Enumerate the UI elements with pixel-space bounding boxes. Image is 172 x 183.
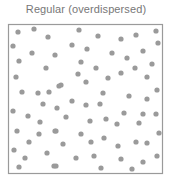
- point-dot: [98, 165, 103, 170]
- point-dot: [95, 33, 100, 38]
- point-dot: [44, 150, 49, 155]
- point-dot: [54, 105, 59, 110]
- point-dot: [73, 155, 78, 160]
- point-dot: [53, 128, 58, 133]
- point-dot: [10, 108, 15, 113]
- point-dot: [84, 46, 89, 51]
- point-dot: [126, 93, 131, 98]
- point-dot: [91, 153, 96, 158]
- point-dot: [136, 120, 141, 125]
- point-dot: [75, 71, 80, 76]
- point-dot: [109, 50, 114, 55]
- point-dot: [97, 101, 102, 106]
- point-dot: [22, 155, 27, 160]
- point-dot: [37, 119, 42, 124]
- point-dot: [36, 131, 41, 136]
- point-dot: [87, 118, 92, 123]
- point-dot: [45, 34, 50, 39]
- point-dot: [69, 42, 74, 47]
- point-dot: [155, 40, 160, 45]
- point-dot: [11, 147, 16, 152]
- point-dot: [144, 140, 149, 145]
- point-dot: [153, 111, 158, 116]
- point-dot: [15, 29, 20, 34]
- plot-frame: [9, 25, 163, 174]
- point-dot: [118, 70, 123, 75]
- point-dot: [118, 36, 123, 41]
- point-dot: [133, 139, 138, 144]
- point-dot: [124, 55, 129, 60]
- points-group: [10, 26, 161, 171]
- point-dot: [140, 48, 145, 53]
- point-dot: [133, 32, 138, 37]
- point-dot: [25, 113, 30, 118]
- point-dot: [78, 131, 83, 136]
- point-dot: [53, 163, 58, 168]
- point-dot: [40, 101, 45, 106]
- point-dot: [63, 114, 68, 119]
- point-dot: [153, 28, 158, 33]
- point-dot: [118, 156, 123, 161]
- point-dot: [129, 166, 134, 171]
- point-dot: [26, 139, 31, 144]
- point-dot: [78, 59, 83, 64]
- point-dot: [105, 75, 110, 80]
- point-dot: [88, 139, 93, 144]
- point-dot: [132, 65, 137, 70]
- point-dot: [13, 74, 18, 79]
- point-dot: [121, 110, 126, 115]
- point-dot: [100, 90, 105, 95]
- point-dot: [103, 116, 108, 121]
- point-dot: [140, 111, 145, 116]
- point-dot: [58, 82, 63, 87]
- point-dot: [76, 27, 81, 32]
- point-dot: [29, 50, 34, 55]
- point-dot: [14, 128, 19, 133]
- point-dot: [69, 98, 74, 103]
- point-dot: [46, 89, 51, 94]
- point-dot: [115, 143, 120, 148]
- point-dot: [156, 130, 161, 135]
- point-dot: [144, 96, 149, 101]
- point-dot: [140, 159, 145, 164]
- point-dot: [101, 135, 106, 140]
- point-dot: [16, 164, 21, 169]
- point-dot: [43, 65, 48, 70]
- point-dot: [35, 90, 40, 95]
- point-dot: [114, 121, 119, 126]
- point-dot: [10, 43, 15, 48]
- point-dot: [31, 26, 36, 31]
- point-pattern-plot: [0, 0, 172, 183]
- point-dot: [19, 89, 24, 94]
- point-dot: [52, 52, 57, 57]
- point-dot: [149, 61, 154, 66]
- point-dot: [93, 65, 98, 70]
- point-dot: [154, 153, 159, 158]
- point-dot: [83, 79, 88, 84]
- point-dot: [60, 141, 65, 146]
- point-dot: [144, 74, 149, 79]
- point-dot: [16, 58, 21, 63]
- point-dot: [154, 87, 159, 92]
- point-dot: [83, 102, 88, 107]
